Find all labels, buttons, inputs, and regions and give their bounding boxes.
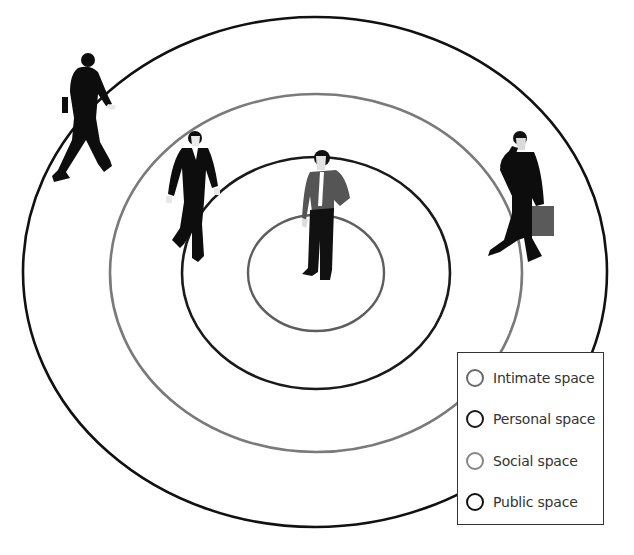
torso	[70, 67, 112, 118]
legend-swatch-personal-icon	[466, 410, 484, 428]
legend-label: Public space	[493, 494, 578, 510]
face	[316, 156, 326, 170]
man-on-phone	[488, 131, 554, 262]
legend-swatch-social-icon	[466, 452, 484, 470]
trousers	[302, 208, 334, 280]
legend: Intimate space Personal space Social spa…	[457, 352, 604, 525]
face	[191, 136, 200, 146]
legend-item-public: Public space	[466, 487, 578, 517]
legend-label: Personal space	[493, 411, 595, 427]
legend-label: Social space	[493, 453, 578, 469]
hand	[302, 218, 308, 228]
legend-swatch-public-icon	[466, 493, 484, 511]
man-walking-personal	[166, 131, 220, 262]
man-walking-public	[52, 53, 116, 182]
briefcase	[532, 206, 554, 236]
torso	[168, 148, 218, 202]
legend-label: Intimate space	[493, 370, 594, 386]
legs	[172, 202, 204, 262]
head	[81, 53, 95, 67]
legend-item-social: Social space	[466, 446, 578, 476]
legend-item-personal: Personal space	[466, 404, 595, 434]
legs	[52, 118, 112, 182]
briefcase	[62, 97, 68, 113]
legend-item-intimate: Intimate space	[466, 363, 594, 393]
legend-swatch-intimate-icon	[466, 369, 484, 387]
